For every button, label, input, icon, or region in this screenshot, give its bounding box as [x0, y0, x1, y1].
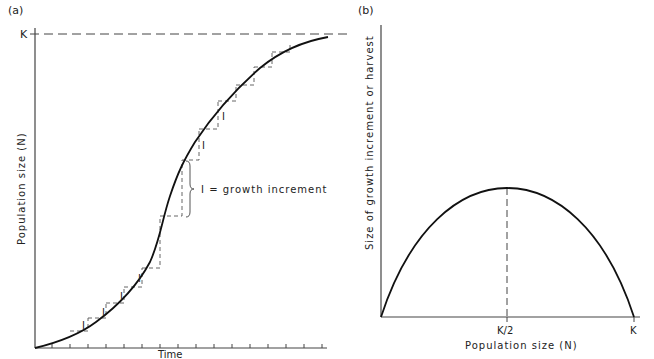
growth-increment-legend: I = growth increment [201, 184, 327, 195]
panel-b-tag: (b) [358, 4, 374, 17]
increment-label: I [202, 140, 205, 151]
increment-label: I [82, 320, 85, 331]
increment-label: I [138, 273, 141, 284]
figure: (a) K [0, 0, 654, 359]
x-axis-label: Time [157, 349, 182, 359]
harvest-curve [381, 188, 634, 317]
increment-label: I [102, 307, 105, 318]
brace-icon [186, 161, 194, 217]
panel-a-tag: (a) [8, 4, 23, 17]
half-k-tick-label: K/2 [497, 325, 513, 336]
y-axis-label: Population size (N) [16, 132, 27, 245]
y-axis-label: Size of growth increment or harvest [364, 35, 375, 250]
panel-a: (a) K [8, 4, 352, 359]
k-label: K [20, 28, 28, 41]
x-axis-label: Population size (N) [465, 340, 578, 351]
increment-label: I [222, 111, 225, 122]
k-tick-label: K [630, 325, 637, 336]
panel-b: (b) K/2 K Population size (N) Size of gr… [358, 4, 640, 351]
increment-label: I [120, 291, 123, 302]
